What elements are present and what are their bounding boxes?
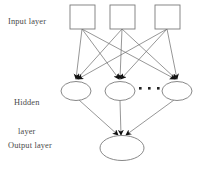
output-layer-label: Output layer (8, 141, 52, 151)
hidden-layer-ellipsis-icon (139, 87, 160, 90)
edges-hidden-to-output (79, 100, 174, 135)
input-node-3 (155, 5, 180, 29)
edge-h3-o1 (126, 100, 174, 135)
edge-i1-h1 (76, 29, 82, 79)
hidden-layer-nodes (61, 82, 192, 101)
input-node-1 (70, 5, 95, 29)
edge-i2-h3 (122, 29, 176, 79)
input-layer-label: Input layer (8, 17, 46, 27)
hidden-layer-label-line1: Hidden (14, 98, 40, 108)
edge-i1-h2 (82, 29, 119, 79)
edge-i3-h3 (167, 29, 177, 79)
edge-h2-o1 (120, 101, 121, 135)
input-layer-nodes (70, 5, 180, 29)
output-node-1 (100, 136, 144, 161)
edge-i3-h1 (78, 29, 167, 79)
edge-i2-h2 (120, 29, 122, 79)
hidden-layer-label-line2: layer (14, 127, 40, 137)
ellipsis-dot (139, 87, 142, 90)
neural-network-diagram: Input layer Hidden layer Output layer (0, 0, 199, 169)
edge-i1-h3 (82, 29, 175, 79)
edges-input-to-hidden (76, 29, 177, 79)
output-layer-nodes (100, 136, 144, 161)
ellipsis-dot (148, 87, 151, 90)
input-node-2 (110, 5, 135, 29)
hidden-node-1 (61, 82, 91, 101)
edge-i2-h1 (77, 29, 122, 79)
edge-h1-o1 (79, 100, 118, 135)
hidden-node-3 (162, 82, 192, 101)
hidden-node-2 (105, 82, 135, 101)
ellipsis-dot (157, 87, 160, 90)
